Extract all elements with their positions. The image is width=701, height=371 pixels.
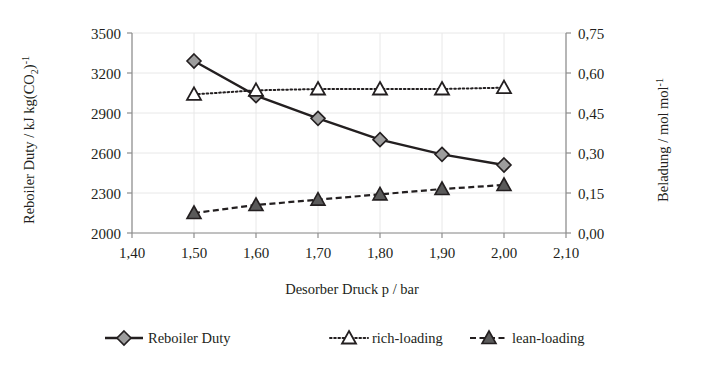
y-tick-label: 3200 [91, 66, 121, 82]
chart-figure: 1,401,501,601,701,801,902,002,10 2000230… [0, 0, 701, 371]
x-axis-title: Desorber Druck p / bar [285, 281, 419, 297]
y-tick-label: 2600 [91, 146, 121, 162]
x-tick-label: 1,50 [181, 245, 207, 261]
y-tick-label: 2300 [91, 186, 121, 202]
x-tick-label: 2,10 [553, 245, 579, 261]
y2-axis-title: Beladung / mol mol-1 [654, 78, 671, 202]
x-tick-label: 1,80 [367, 245, 393, 261]
legend-label: rich-loading [372, 330, 443, 346]
y2-tick-label: 0,00 [578, 226, 604, 242]
y2-tick-label: 0,60 [578, 66, 604, 82]
y2-tick-label: 0,15 [578, 186, 604, 202]
x-tick-label: 1,70 [305, 245, 331, 261]
x-tick-label: 2,00 [491, 245, 517, 261]
legend-item-reboiler-duty[interactable]: Reboiler Duty [105, 330, 231, 346]
y-tick-label: 2900 [91, 106, 121, 122]
y2-tick-label: 0,75 [578, 26, 604, 42]
legend-label: Reboiler Duty [148, 330, 231, 346]
y2-tick-label: 0,45 [578, 106, 604, 122]
y-tick-label: 2000 [91, 226, 121, 242]
y-tick-label: 3500 [91, 26, 121, 42]
line-chart-svg: 1,401,501,601,701,801,902,002,10 2000230… [0, 0, 701, 371]
legend-label: lean-loading [512, 330, 584, 346]
x-tick-label: 1,90 [429, 245, 455, 261]
x-tick-label: 1,60 [243, 245, 269, 261]
y2-tick-label: 0,30 [578, 146, 604, 162]
x-tick-label: 1,40 [119, 245, 145, 261]
